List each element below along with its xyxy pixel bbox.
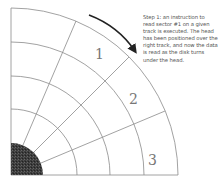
sector-line-2: [34, 57, 129, 152]
caption-line: has been positioned over the: [143, 35, 221, 42]
sector-label-1: 1: [95, 46, 104, 62]
sector-line-1: [23, 21, 76, 145]
sector-label-3: 3: [148, 152, 157, 168]
sector-label-2: 2: [129, 91, 138, 107]
caption-line: is read as the disk turns: [143, 49, 221, 56]
step-caption: Step 1: an instruction to read sector #1…: [143, 14, 221, 64]
caption-line: track is executed. The head: [143, 28, 221, 35]
caption-line: right track, and now the data: [143, 42, 221, 49]
sector-line-3: [41, 111, 165, 163]
caption-line: Step 1: an instruction to: [143, 14, 221, 21]
caption-line: under the head.: [143, 57, 221, 64]
caption-line: read sector #1 on a given: [143, 21, 221, 28]
